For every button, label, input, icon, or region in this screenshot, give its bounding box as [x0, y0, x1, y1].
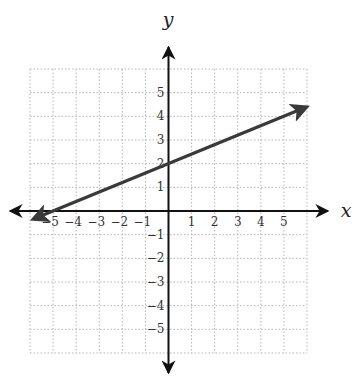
- y-tick-label: −2: [147, 251, 165, 265]
- x-tick-label: −4: [64, 215, 82, 229]
- x-tick-label: 2: [211, 215, 219, 229]
- y-axis-label: y: [162, 8, 174, 30]
- y-tick-label: −3: [147, 275, 165, 289]
- x-tick-label: 5: [280, 215, 288, 229]
- x-axis-label: x: [341, 199, 352, 221]
- x-tick-label: −3: [87, 215, 105, 229]
- y-tick-label: 3: [157, 133, 165, 147]
- y-tick-label: 5: [157, 86, 165, 100]
- x-tick-label: −2: [110, 215, 128, 229]
- x-tick-label: 4: [257, 215, 265, 229]
- line-series: [33, 107, 306, 219]
- y-tick-label: −1: [147, 228, 165, 242]
- coordinate-plane: −5−4−3−2−11234554321−1−2−3−4−5 y x: [0, 0, 363, 380]
- plotted-line: [33, 107, 306, 219]
- x-tick-label: 1: [188, 215, 196, 229]
- y-tick-label: 4: [157, 109, 165, 123]
- y-tick-label: −4: [147, 299, 165, 313]
- x-tick-label: 3: [234, 215, 242, 229]
- y-tick-label: −5: [147, 322, 165, 336]
- y-tick-label: 1: [157, 180, 165, 194]
- x-tick-label: −5: [41, 215, 59, 229]
